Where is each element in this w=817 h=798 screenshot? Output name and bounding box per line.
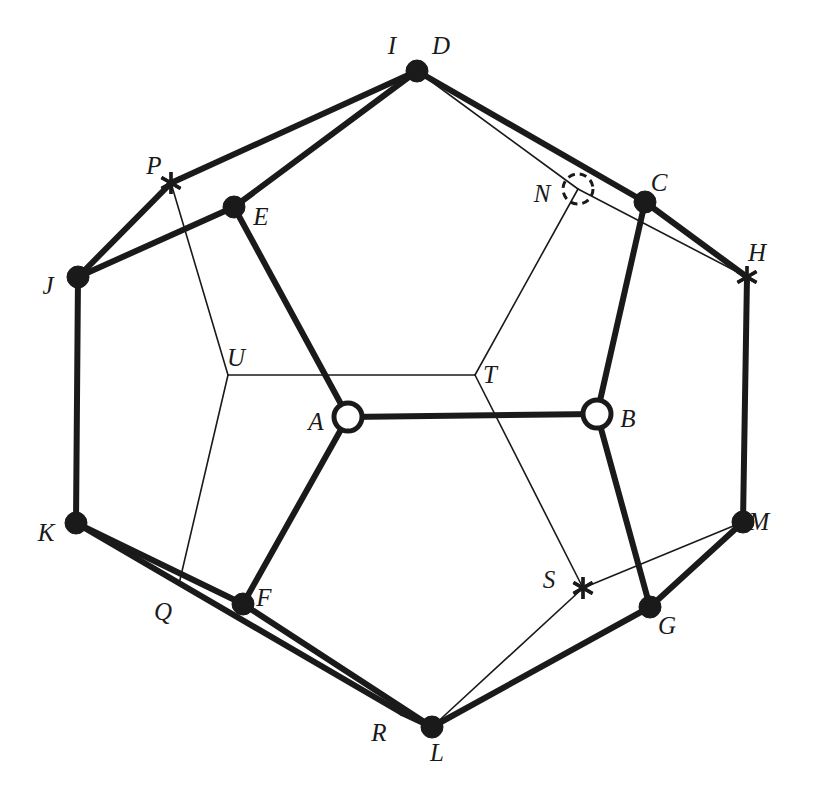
vertex-label-h: H: [747, 239, 768, 266]
vertex-label-d: D: [431, 32, 450, 59]
filled-vertex-j: [67, 266, 89, 288]
thick-edge-h-m: [743, 277, 747, 522]
filled-vertex-l: [421, 716, 443, 738]
vertex-label-r: R: [370, 719, 386, 746]
vertex-label-b: B: [620, 405, 635, 432]
vertex-label-f: F: [255, 584, 272, 611]
diagram-canvas: DIPENCJHUTABKMSQFGRL: [0, 0, 817, 798]
filled-vertex-e: [223, 196, 245, 218]
vertex-label-j: J: [42, 272, 55, 299]
filled-vertex-f: [232, 593, 254, 615]
diagram-background: [0, 0, 817, 798]
vertex-label-q: Q: [154, 598, 172, 625]
open-vertex-b: [583, 400, 611, 428]
filled-vertex-k: [65, 512, 87, 534]
vertex-label-l: L: [429, 739, 444, 766]
geometric-diagram-figure: DIPENCJHUTABKMSQFGRL: [0, 0, 817, 798]
vertex-label-t: T: [483, 361, 499, 388]
thick-edge-j-k: [76, 277, 78, 523]
open-vertex-a: [334, 403, 362, 431]
vertex-label-k: K: [37, 519, 56, 546]
thick-edge-a-b: [348, 414, 597, 417]
vertex-label-u: U: [227, 344, 247, 371]
vertex-label-e: E: [252, 203, 268, 230]
vertex-label-s: S: [543, 566, 556, 593]
vertex-label-p: P: [145, 152, 161, 179]
vertex-label-m: M: [748, 508, 771, 535]
vertex-label-g: G: [658, 612, 676, 639]
filled-vertex-d: [406, 60, 428, 82]
vertex-label-a: A: [306, 408, 324, 435]
vertex-label-n: N: [533, 180, 552, 207]
vertex-label-c: C: [651, 169, 668, 196]
